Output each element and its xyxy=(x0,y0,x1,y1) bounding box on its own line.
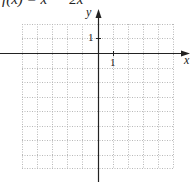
y-axis-arrow-icon xyxy=(96,9,102,18)
grid-lines xyxy=(22,24,174,169)
x-axis-label: x xyxy=(184,53,189,68)
x-axis xyxy=(0,51,190,57)
y-axis xyxy=(96,9,102,182)
x-tick-label: 1 xyxy=(110,56,116,68)
y-axis-label: y xyxy=(86,5,91,20)
y-tick-label: 1 xyxy=(88,31,94,43)
coordinate-grid xyxy=(0,0,192,182)
